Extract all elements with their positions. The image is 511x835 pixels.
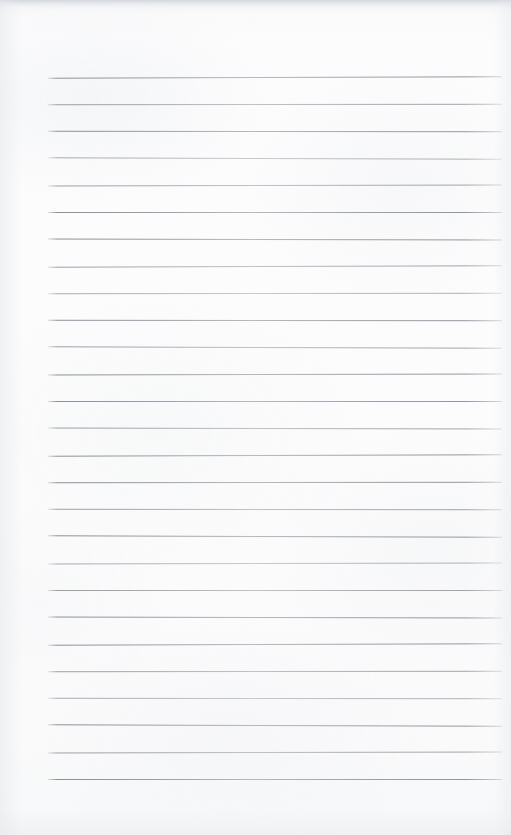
writing-area[interactable] [48, 60, 502, 790]
lined-paper-page [0, 0, 511, 835]
